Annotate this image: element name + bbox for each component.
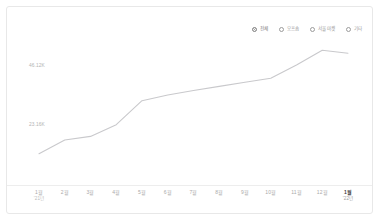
axis-divider [7, 185, 372, 186]
x-tick-month-1: 2월 [61, 189, 69, 195]
x-tick-0: 1월'21년 [34, 189, 44, 202]
x-tick-year-0: '21년 [34, 196, 44, 202]
x-tick-6: 7월 [190, 189, 198, 195]
x-tick-year-12: '22년 [343, 196, 353, 202]
x-tick-month-7: 8월 [215, 189, 223, 195]
x-tick-11: 12월 [317, 189, 328, 195]
y-axis-label-low: 23.16K [29, 122, 45, 127]
x-tick-month-2: 3월 [87, 189, 95, 195]
x-tick-9: 10월 [265, 189, 276, 195]
y-axis-label-high: 46.12K [29, 63, 45, 68]
chart-card: 전체 오프숍 서울마켓 기타 46.12K 23.16K 1월'21년2월3월4… [6, 6, 373, 214]
line-series-svg [7, 19, 373, 182]
x-tick-month-3: 4월 [112, 189, 120, 195]
plot-area: 46.12K 23.16K [7, 19, 373, 182]
x-tick-month-5: 6월 [164, 189, 172, 195]
x-tick-month-11: 12월 [317, 189, 328, 195]
x-tick-month-10: 11월 [291, 189, 302, 195]
x-axis: 1월'21년2월3월4월5월6월7월8월9월10월11월12월1월'22년 [7, 187, 373, 214]
x-tick-month-9: 10월 [265, 189, 276, 195]
x-tick-month-4: 5월 [138, 189, 146, 195]
x-tick-4: 5월 [138, 189, 146, 195]
x-tick-8: 9월 [241, 189, 249, 195]
x-tick-7: 8월 [215, 189, 223, 195]
series-line-전체 [39, 50, 348, 154]
x-tick-3: 4월 [112, 189, 120, 195]
x-tick-1: 2월 [61, 189, 69, 195]
x-tick-month-6: 7월 [190, 189, 198, 195]
x-tick-5: 6월 [164, 189, 172, 195]
x-tick-month-0: 1월 [34, 189, 44, 195]
x-tick-10: 11월 [291, 189, 302, 195]
x-tick-month-12: 1월 [343, 189, 353, 195]
x-tick-2: 3월 [87, 189, 95, 195]
x-tick-12: 1월'22년 [343, 189, 353, 202]
x-tick-month-8: 9월 [241, 189, 249, 195]
